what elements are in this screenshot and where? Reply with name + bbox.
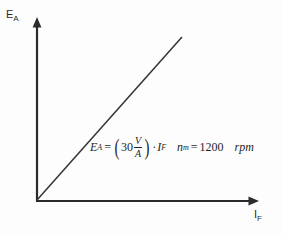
y-axis-arrowhead — [33, 17, 42, 28]
x-axis-label: IF — [254, 208, 262, 220]
volts-per-amp-fraction: V A — [134, 136, 142, 159]
fraction-numerator: V — [134, 136, 142, 146]
equation-equals-sign: = — [104, 140, 111, 155]
speed-equals-sign: = — [191, 140, 198, 155]
multiply-dot: · — [152, 140, 156, 155]
characteristic-line — [37, 37, 182, 200]
speed-condition: nm = 1200 rpm — [177, 140, 254, 155]
y-axis-label: EA — [6, 8, 19, 20]
equation-main: EA = ( 30 V A ) · IF — [90, 136, 166, 159]
equation-coefficient: 30 — [121, 140, 133, 155]
x-axis-label-subscript: F — [257, 214, 262, 223]
equation-annotation: EA = ( 30 V A ) · IF nm = 1200 rpm — [90, 136, 254, 159]
plot-area — [0, 0, 282, 236]
x-axis-arrowhead — [249, 197, 260, 206]
y-axis-label-subscript: A — [13, 14, 18, 23]
paren-open: ( — [115, 140, 120, 154]
figure-canvas: EA IF EA = ( 30 V A ) · IF nm = 1200 rpm — [0, 0, 282, 236]
paren-close: ) — [145, 140, 150, 154]
fraction-denominator: A — [134, 149, 142, 159]
speed-value: 1200 — [200, 140, 224, 155]
speed-units: rpm — [235, 140, 254, 155]
